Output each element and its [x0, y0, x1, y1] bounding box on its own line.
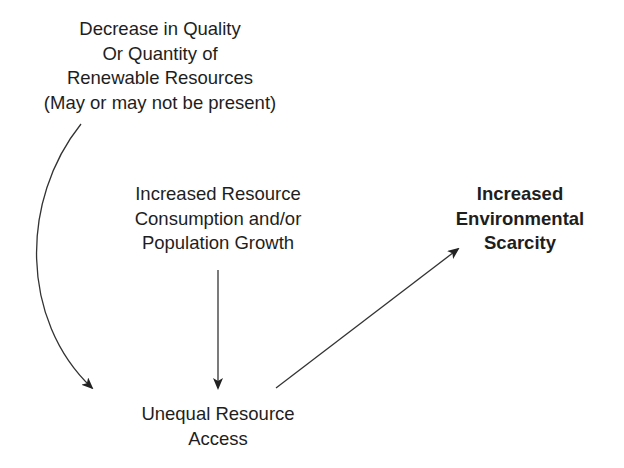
curved-arrow-decrease-to-unequal	[37, 124, 92, 388]
arrow-unequal-to-scarcity	[276, 249, 458, 388]
diagram-arrows	[0, 0, 624, 468]
